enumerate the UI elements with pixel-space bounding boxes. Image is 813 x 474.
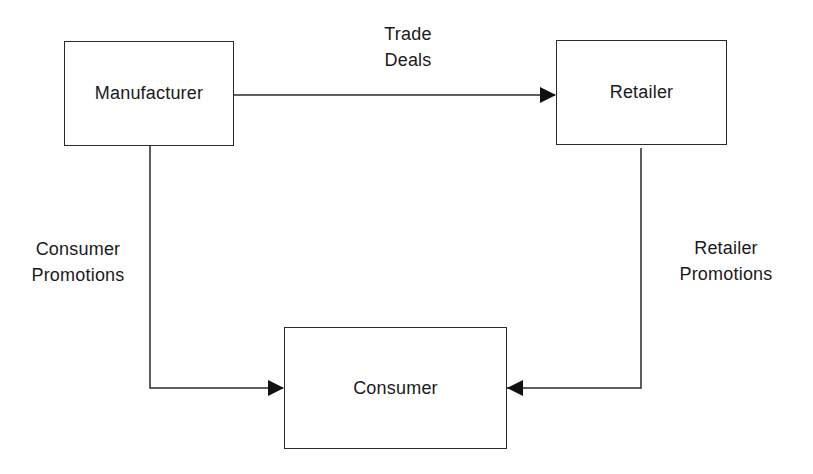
edge-consumer-promotions bbox=[150, 145, 284, 396]
edge-trade-deals bbox=[234, 87, 556, 103]
arrowhead-right-icon bbox=[268, 380, 284, 396]
arrowhead-left-icon bbox=[507, 380, 523, 396]
node-label: Manufacturer bbox=[95, 83, 203, 104]
node-label: Consumer bbox=[353, 378, 438, 399]
label-line: Consumer bbox=[14, 236, 142, 262]
node-manufacturer: Manufacturer bbox=[64, 41, 234, 146]
label-line: Promotions bbox=[662, 261, 790, 287]
node-retailer: Retailer bbox=[556, 40, 727, 145]
edge-label-retailer-promotions: Retailer Promotions bbox=[662, 235, 790, 287]
label-line: Trade bbox=[358, 21, 458, 47]
edge-retailer-promotions bbox=[507, 148, 641, 396]
label-line: Promotions bbox=[14, 262, 142, 288]
edge-label-trade-deals: Trade Deals bbox=[358, 21, 458, 73]
edge-label-consumer-promotions: Consumer Promotions bbox=[14, 236, 142, 288]
label-line: Retailer bbox=[662, 235, 790, 261]
node-label: Retailer bbox=[610, 82, 674, 103]
arrowhead-right-icon bbox=[540, 87, 556, 103]
node-consumer: Consumer bbox=[284, 327, 507, 449]
label-line: Deals bbox=[358, 47, 458, 73]
